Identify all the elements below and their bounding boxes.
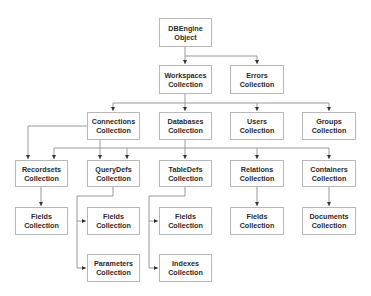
node-indexes-collection: Indexes Collection: [159, 254, 212, 282]
node-sublabel: Collection: [240, 80, 275, 89]
node-sublabel: Collection: [312, 126, 347, 135]
node-label: TableDefs: [169, 165, 203, 174]
node-label: Documents: [309, 212, 348, 221]
node-containers-collection: Containers Collection: [302, 160, 356, 187]
node-label: Containers: [310, 165, 348, 174]
node-sublabel: Collection: [168, 221, 203, 230]
node-label: Indexes: [172, 259, 199, 268]
node-querydefs-fields-collection: Fields Collection: [87, 207, 140, 235]
node-label: Parameters: [94, 259, 133, 268]
node-connections-collection: Connections Collection: [87, 112, 140, 140]
node-sublabel: Collection: [240, 126, 275, 135]
dao-object-hierarchy-diagram: DBEngine Object Workspaces Collection Er…: [0, 0, 371, 296]
node-sublabel: Collection: [24, 174, 59, 183]
node-label: Connections: [92, 117, 136, 126]
node-label: Fields: [247, 212, 268, 221]
node-label: QueryDefs: [95, 165, 131, 174]
node-parameters-collection: Parameters Collection: [87, 254, 140, 282]
node-tabledefs-fields-collection: Fields Collection: [159, 207, 212, 235]
node-sublabel: Collection: [96, 221, 131, 230]
node-sublabel: Object: [174, 33, 196, 42]
node-sublabel: Collection: [240, 174, 275, 183]
node-recordsets-fields-collection: Fields Collection: [15, 207, 68, 235]
node-label: Relations: [241, 165, 273, 174]
node-relations-collection: Relations Collection: [230, 160, 284, 187]
node-documents-collection: Documents Collection: [302, 207, 356, 235]
node-label: Users: [247, 117, 267, 126]
node-sublabel: Collection: [312, 221, 347, 230]
node-users-collection: Users Collection: [230, 112, 284, 140]
node-errors-collection: Errors Collection: [230, 65, 284, 94]
node-label: DBEngine: [168, 24, 202, 33]
node-label: Recordsets: [22, 165, 61, 174]
node-sublabel: Collection: [168, 126, 203, 135]
node-sublabel: Collection: [240, 221, 275, 230]
node-sublabel: Collection: [96, 174, 131, 183]
node-sublabel: Collection: [168, 80, 203, 89]
node-sublabel: Collection: [312, 174, 347, 183]
node-sublabel: Collection: [24, 221, 59, 230]
node-label: Fields: [103, 212, 124, 221]
node-sublabel: Collection: [96, 126, 131, 135]
node-tabledefs-collection: TableDefs Collection: [159, 160, 212, 187]
node-label: Workspaces: [164, 71, 206, 80]
node-label: Databases: [168, 117, 204, 126]
node-sublabel: Collection: [168, 174, 203, 183]
node-label: Groups: [316, 117, 342, 126]
node-querydefs-collection: QueryDefs Collection: [87, 160, 140, 187]
node-databases-collection: Databases Collection: [159, 112, 212, 140]
node-label: Fields: [31, 212, 52, 221]
node-sublabel: Collection: [168, 268, 203, 277]
node-relations-fields-collection: Fields Collection: [230, 207, 284, 235]
node-dbengine-object: DBEngine Object: [159, 18, 212, 47]
node-recordsets-collection: Recordsets Collection: [15, 160, 68, 187]
node-label: Errors: [246, 71, 268, 80]
node-sublabel: Collection: [96, 268, 131, 277]
node-label: Fields: [175, 212, 196, 221]
node-groups-collection: Groups Collection: [302, 112, 356, 140]
node-workspaces-collection: Workspaces Collection: [159, 65, 212, 94]
